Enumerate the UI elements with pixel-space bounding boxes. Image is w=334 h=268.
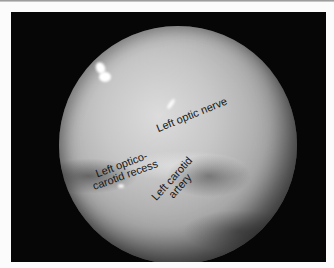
light-reflection [99,72,111,82]
light-reflection [118,184,124,188]
endoscopic-field-of-view [59,26,297,262]
page-top-border [0,0,334,2]
endoscopic-image-frame [11,12,326,262]
